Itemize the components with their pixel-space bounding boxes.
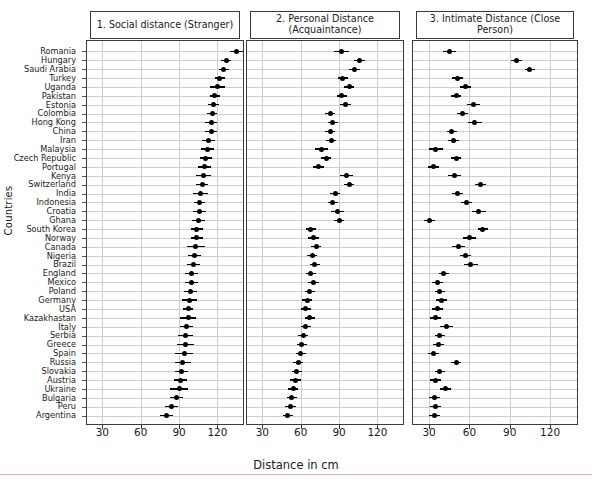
y-axis-tick-portugal: Portugal [42, 163, 76, 171]
y-tick-mark [82, 194, 86, 195]
y-axis-tick-malaysia: Malaysia [40, 145, 76, 153]
x-tick-mark [179, 425, 180, 429]
gridline-vertical [301, 41, 302, 424]
data-point [433, 147, 438, 152]
y-axis-tick-germany: Germany [38, 296, 76, 304]
data-point [337, 218, 342, 223]
gridline-horizontal [413, 131, 577, 132]
data-point [437, 369, 442, 374]
data-point [328, 129, 333, 134]
gridline-horizontal [247, 60, 403, 61]
y-tick-mark [82, 309, 86, 310]
data-point [316, 164, 321, 169]
gridline-vertical [217, 41, 218, 424]
gridline-vertical [339, 41, 340, 424]
page-baseline-rule [0, 474, 592, 475]
data-point [437, 333, 442, 338]
data-point [347, 84, 352, 89]
data-point [344, 173, 349, 178]
data-point [234, 49, 239, 54]
data-point [211, 102, 216, 107]
gridline-horizontal [413, 247, 577, 248]
data-point [189, 280, 194, 285]
data-point [186, 306, 191, 311]
data-point [184, 324, 189, 329]
gridline-horizontal [87, 273, 243, 274]
data-point [347, 182, 352, 187]
y-tick-mark [82, 416, 86, 417]
gridline-horizontal [247, 336, 403, 337]
gridline-horizontal [247, 380, 403, 381]
data-point [319, 147, 324, 152]
data-point [432, 395, 437, 400]
gridline-horizontal [413, 211, 577, 212]
y-axis-tick-usa: USA [59, 305, 76, 313]
gridline-horizontal [87, 371, 243, 372]
gridline-horizontal [413, 78, 577, 79]
data-point [443, 386, 448, 391]
data-point [324, 156, 329, 161]
gridline-horizontal [413, 60, 577, 61]
y-axis-tick-poland: Poland [49, 287, 76, 295]
y-tick-mark [82, 185, 86, 186]
gridline-horizontal [87, 229, 243, 230]
data-point [451, 138, 456, 143]
x-tick-mark [377, 425, 378, 429]
data-point [294, 369, 299, 374]
gridline-horizontal [87, 202, 243, 203]
x-tick-mark [217, 425, 218, 429]
gridline-horizontal [247, 238, 403, 239]
gridline-horizontal [87, 256, 243, 257]
y-tick-mark [82, 247, 86, 248]
y-tick-mark [82, 345, 86, 346]
gridline-horizontal [87, 309, 243, 310]
gridline-horizontal [413, 87, 577, 88]
data-point [197, 200, 202, 205]
gridline-vertical [510, 41, 511, 424]
data-point [330, 200, 335, 205]
gridline-horizontal [247, 176, 403, 177]
y-axis-tick-slovakia: Slovakia [42, 367, 76, 375]
gridline-horizontal [413, 122, 577, 123]
panel-personal [246, 40, 404, 425]
panel-social-title: 1. Social distance (Stranger) [90, 11, 240, 39]
gridline-horizontal [247, 389, 403, 390]
y-axis-tick-pakistan: Pakistan [42, 92, 76, 100]
data-point [299, 342, 304, 347]
y-tick-mark [82, 318, 86, 319]
gridline-horizontal [247, 202, 403, 203]
gridline-horizontal [413, 105, 577, 106]
data-point [340, 76, 345, 81]
y-tick-mark [82, 291, 86, 292]
data-point [447, 49, 452, 54]
gridline-horizontal [87, 194, 243, 195]
gridline-horizontal [247, 273, 403, 274]
y-tick-mark [82, 51, 86, 52]
gridline-vertical [377, 41, 378, 424]
data-point [197, 209, 202, 214]
data-point [196, 218, 201, 223]
data-point [285, 413, 290, 418]
data-point [455, 76, 460, 81]
x-tick-mark [429, 425, 430, 429]
gridline-horizontal [87, 282, 243, 283]
gridline-horizontal [87, 176, 243, 177]
gridline-horizontal [247, 353, 403, 354]
y-tick-mark [82, 238, 86, 239]
y-axis-tick-kazakhastan: Kazakhastan [24, 314, 76, 322]
y-axis-tick-canada: Canada [45, 243, 76, 251]
data-point [179, 369, 184, 374]
data-point [478, 182, 483, 187]
y-tick-mark [82, 211, 86, 212]
y-tick-mark [82, 336, 86, 337]
gridline-horizontal [247, 69, 403, 70]
gridline-horizontal [413, 185, 577, 186]
data-point [333, 191, 338, 196]
gridline-horizontal [247, 122, 403, 123]
data-point [182, 351, 187, 356]
gridline-horizontal [247, 327, 403, 328]
data-point [203, 156, 208, 161]
gridline-horizontal [247, 211, 403, 212]
y-tick-mark [82, 256, 86, 257]
data-point [215, 84, 220, 89]
